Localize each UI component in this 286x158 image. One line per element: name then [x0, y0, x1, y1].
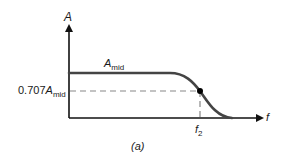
level-label-sub: mid	[53, 90, 66, 99]
cutoff-label-sub: 2	[198, 129, 202, 138]
response-curve	[69, 73, 232, 118]
cutoff-frequency-label: f2	[195, 124, 203, 135]
x-axis-label: f	[266, 112, 269, 123]
level-label: 0.707Amid	[18, 85, 66, 96]
cutoff-point-dot	[197, 88, 203, 94]
frequency-response-plot	[0, 0, 286, 158]
level-label-base: A	[46, 84, 53, 96]
curve-label-sub: mid	[111, 63, 124, 72]
level-label-prefix: 0.707	[18, 84, 46, 96]
curve-label-amid: Amid	[104, 58, 124, 69]
y-axis-label: A	[64, 11, 72, 23]
frequency-response-diagram: A Amid 0.707Amid f f2 (a)	[0, 0, 286, 158]
figure-caption: (a)	[131, 141, 144, 152]
